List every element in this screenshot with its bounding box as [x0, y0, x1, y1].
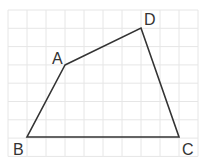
quadrilateral-diagram: ABCD	[0, 0, 201, 163]
grid	[8, 10, 198, 156]
vertex-label-d: D	[144, 11, 156, 28]
vertex-label-b: B	[13, 141, 24, 158]
vertex-label-c: C	[182, 141, 194, 158]
vertex-label-a: A	[52, 50, 63, 67]
